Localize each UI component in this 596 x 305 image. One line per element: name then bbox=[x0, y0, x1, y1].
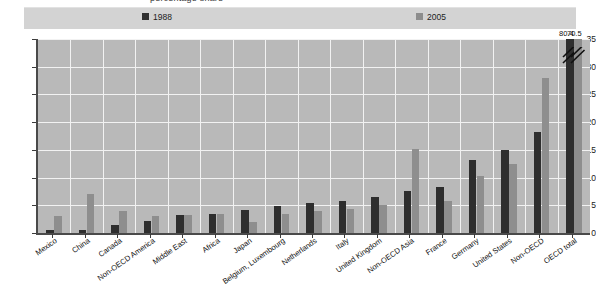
gridline-vertical bbox=[558, 39, 559, 233]
bar-1988-non-oecd-asia bbox=[404, 191, 412, 233]
bar-1988-united-kingdom bbox=[371, 197, 379, 233]
gridline-vertical bbox=[428, 39, 429, 233]
bar-2005-china bbox=[87, 194, 95, 233]
x-axis-label-france: France bbox=[425, 237, 449, 257]
bar-2005-oecd-total bbox=[574, 39, 582, 233]
x-axis-label-mexico: Mexico bbox=[35, 237, 59, 257]
x-axis-label-africa: Africa bbox=[201, 237, 221, 254]
bar-1988-africa bbox=[209, 214, 217, 233]
gridline-horizontal bbox=[38, 67, 590, 68]
gridline-vertical bbox=[363, 39, 364, 233]
gridline-vertical bbox=[135, 39, 136, 233]
square-marker-icon bbox=[416, 13, 423, 20]
bar-1988-canada bbox=[111, 225, 119, 233]
bar-2005-italy bbox=[347, 209, 355, 233]
bar-1988-belgium-luxembourg bbox=[274, 206, 282, 233]
x-axis-label-china: China bbox=[70, 237, 91, 255]
legend-item-1988: 1988 bbox=[142, 12, 172, 21]
x-axis-label-middle-east: Middle East bbox=[152, 237, 189, 266]
x-axis-label-canada: Canada bbox=[97, 237, 123, 258]
square-marker-icon bbox=[142, 13, 149, 20]
bar-2005-africa bbox=[217, 214, 225, 233]
bar-1988-united-states bbox=[501, 150, 509, 233]
bar-2005-france bbox=[444, 201, 452, 233]
x-axis-label-italy: Italy bbox=[335, 237, 351, 251]
x-axis-label-non-oecd-america: Non-OECD America bbox=[96, 237, 156, 282]
bar-1988-france bbox=[436, 187, 444, 233]
bar-1988-middle-east bbox=[176, 215, 184, 233]
x-axis-label-non-oecd: Non-OECD bbox=[510, 237, 546, 265]
chart-legend: 1988 2005 bbox=[24, 7, 576, 29]
bar-2005-belgium-luxembourg bbox=[282, 214, 290, 233]
gridline-vertical bbox=[493, 39, 494, 233]
bar-2005-non-oecd-america bbox=[152, 216, 160, 233]
x-axis-labels: MexicoChinaCanadaNon-OECD AmericaMiddle … bbox=[0, 237, 596, 305]
x-axis-label-oecd-total: OECD total bbox=[542, 237, 578, 265]
gridline-vertical bbox=[265, 39, 266, 233]
chart-container: percentage share 1988 2005 0510152025303… bbox=[0, 0, 596, 305]
gridline-vertical bbox=[168, 39, 169, 233]
bar-1988-non-oecd-america bbox=[144, 221, 152, 233]
gridline-vertical bbox=[233, 39, 234, 233]
bar-2005-non-oecd-asia bbox=[412, 149, 420, 233]
bar-2005-mexico bbox=[54, 216, 62, 233]
gridline-vertical bbox=[298, 39, 299, 233]
bar-1988-germany bbox=[469, 160, 477, 233]
gridline-horizontal bbox=[38, 122, 590, 123]
gridline-vertical bbox=[330, 39, 331, 233]
gridline-vertical bbox=[70, 39, 71, 233]
legend-label-2005: 2005 bbox=[427, 13, 446, 22]
gridline-vertical bbox=[103, 39, 104, 233]
gridline-vertical bbox=[200, 39, 201, 233]
bar-2005-non-oecd bbox=[542, 78, 550, 233]
bar-value-label: 70.5 bbox=[567, 30, 582, 38]
x-axis-label-japan: Japan bbox=[232, 237, 253, 255]
bar-2005-united-kingdom bbox=[379, 205, 387, 233]
x-axis-label-netherlands: Netherlands bbox=[280, 237, 318, 267]
chart-title-strip: percentage share bbox=[0, 0, 596, 7]
bar-1988-oecd-total bbox=[566, 39, 574, 233]
bar-2005-netherlands bbox=[314, 211, 322, 233]
legend-item-2005: 2005 bbox=[416, 12, 446, 21]
gridline-vertical bbox=[395, 39, 396, 233]
bar-1988-non-oecd bbox=[534, 132, 542, 233]
bar-1988-italy bbox=[339, 201, 347, 233]
legend-label-1988: 1988 bbox=[153, 13, 172, 22]
bar-2005-canada bbox=[119, 211, 127, 233]
bar-2005-japan bbox=[249, 222, 257, 233]
gridline-horizontal bbox=[38, 39, 590, 40]
bar-2005-germany bbox=[477, 176, 485, 233]
page-title: percentage share bbox=[150, 0, 223, 3]
bar-2005-united-states bbox=[509, 164, 517, 233]
gridline-vertical bbox=[460, 39, 461, 233]
plot-area bbox=[36, 39, 590, 233]
bar-1988-netherlands bbox=[306, 203, 314, 233]
bar-2005-middle-east bbox=[184, 215, 192, 233]
gridline-horizontal bbox=[38, 94, 590, 95]
x-axis-label-belgium-luxembourg: Belgium, Luxembourg bbox=[221, 237, 286, 286]
bar-1988-japan bbox=[241, 210, 249, 233]
gridline-vertical bbox=[525, 39, 526, 233]
